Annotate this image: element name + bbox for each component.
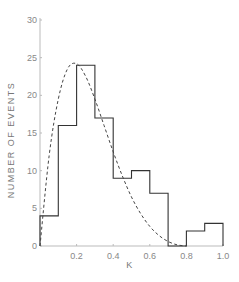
y-tick-label: 10: [27, 166, 37, 176]
x-tick-label: 0.8: [180, 251, 193, 261]
y-tick-label: 25: [27, 53, 37, 63]
x-tick-label: 0.4: [107, 251, 120, 261]
x-tick-label: 1.0: [217, 251, 230, 261]
y-tick-label: 5: [32, 203, 37, 213]
x-tick-label: 0.6: [144, 251, 157, 261]
x-tick-labels: 0.20.40.60.81.0: [70, 251, 229, 261]
y-tick-label: 20: [27, 90, 37, 100]
x-axis-label: K: [126, 260, 134, 270]
y-axis-label: NUMBER OF EVENTS: [6, 82, 16, 199]
y-tick-labels: 051015202530: [27, 15, 37, 251]
histogram-steps: [40, 65, 223, 246]
y-tick-label: 0: [32, 241, 37, 251]
y-tick-label: 30: [27, 15, 37, 25]
x-tick-label: 0.2: [70, 251, 83, 261]
histogram-chart: 051015202530 0.20.40.60.81.0 NUMBER OF E…: [0, 0, 239, 282]
axes: [40, 18, 223, 246]
y-tick-label: 15: [27, 128, 37, 138]
